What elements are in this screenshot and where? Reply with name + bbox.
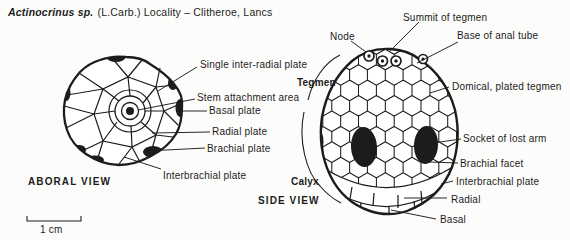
label-basal-plate: Basal plate bbox=[209, 105, 261, 116]
label-calyx-region: Calyx bbox=[291, 176, 319, 187]
label-single-inter-radial-plate: Single inter-radial plate bbox=[200, 59, 307, 70]
label-radial-right: Radial bbox=[451, 194, 481, 205]
figure-title: Actinocrinus sp.(L.Carb.) Locality – Cli… bbox=[8, 6, 272, 18]
scale-bar-label: 1 cm bbox=[40, 224, 62, 235]
label-radial-plate: Radial plate bbox=[212, 126, 267, 137]
species-name: Actinocrinus sp. bbox=[8, 6, 93, 18]
label-node: Node bbox=[330, 31, 355, 42]
leader-anal-tube bbox=[417, 42, 458, 63]
locality-text: (L.Carb.) Locality – Clitheroe, Lancs bbox=[97, 6, 272, 18]
page-number-fragment: 7 bbox=[556, 0, 562, 2]
leader-summit bbox=[390, 22, 419, 51]
label-domical-plated-tegmen: Domical, plated tegmen bbox=[452, 81, 561, 92]
scale-bar-line bbox=[27, 216, 81, 221]
label-base-of-anal-tube: Base of anal tube bbox=[457, 30, 538, 41]
label-interbrachial-plate-left: Interbrachial plate bbox=[163, 170, 246, 181]
label-stem-attachment-area: Stem attachment area bbox=[197, 92, 299, 103]
label-brachial-plate: Brachial plate bbox=[207, 143, 270, 154]
label-socket-of-lost-arm: Socket of lost arm bbox=[463, 133, 547, 144]
aboral-view-drawing bbox=[62, 54, 185, 165]
caption-side-view: SIDE VIEW bbox=[258, 195, 320, 206]
label-tegmen-region: Tegmen bbox=[297, 77, 336, 88]
label-basal-right: Basal bbox=[440, 214, 466, 225]
caption-aboral-view: ABORAL VIEW bbox=[28, 176, 111, 187]
label-summit-of-tegmen: Summit of tegmen bbox=[403, 12, 487, 23]
leader-node bbox=[351, 41, 366, 52]
stem-lumen-dot bbox=[126, 107, 134, 115]
label-interbrachial-plate-right: Interbrachial plate bbox=[456, 176, 539, 187]
label-brachial-facet: Brachial facet bbox=[460, 158, 523, 169]
page-header-fragment: Echinoderms bbox=[455, 0, 521, 2]
fossil-figure: Actinocrinus sp.(L.Carb.) Locality – Cli… bbox=[0, 0, 570, 240]
